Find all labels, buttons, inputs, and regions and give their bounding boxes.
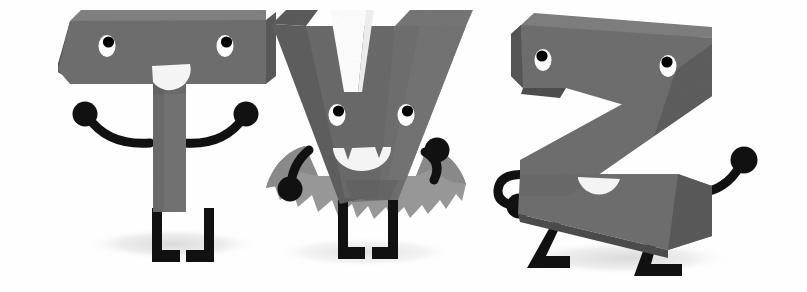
- letter-v-right-hand: [425, 138, 450, 163]
- illustration-canvas: Cartoon 3D Letter Characters T V Z alpha…: [0, 0, 807, 292]
- letters-illustration-svg: [0, 0, 807, 292]
- letter-v-vertex-shade: [345, 180, 398, 202]
- letter-t-left-hand: [73, 102, 98, 127]
- letter-z-right-pupil: [661, 56, 672, 67]
- letter-z-left-pupil: [536, 50, 547, 61]
- letter-t-left-pupil: [103, 36, 114, 47]
- letter-t-right-hand: [234, 102, 259, 127]
- letter-v-left-hand: [278, 177, 303, 202]
- letter-v-right-pupil: [402, 105, 413, 116]
- letter-z-right-hand: [731, 147, 758, 174]
- letter-t-right-pupil: [221, 36, 232, 47]
- letter-v-left-pupil: [333, 105, 344, 116]
- letter-t-stem-shade: [153, 84, 164, 212]
